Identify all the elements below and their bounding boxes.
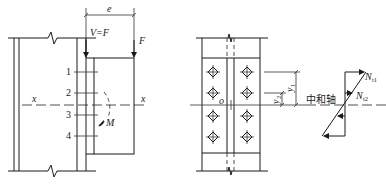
bolted-connection-diagram: 1 2 3 4 x x e V=F F M — [0, 0, 386, 184]
bracket-plate — [94, 58, 134, 154]
bolt-label-1: 1 — [66, 66, 71, 77]
y2-label-sub: 2 — [275, 96, 282, 99]
moment-label: M — [105, 117, 115, 128]
bolt-icon — [240, 86, 254, 100]
y2-label: y 2 — [270, 96, 282, 105]
x-axis-label-left: x — [31, 93, 37, 104]
right-section-view: o 中和轴 y 1 y 2 N — [190, 34, 386, 175]
bolt-group — [206, 65, 254, 144]
bottom-break-line — [8, 165, 96, 177]
left-elevation-view: 1 2 3 4 x x e V=F F M — [8, 3, 148, 177]
moment-arrowhead-icon — [99, 121, 104, 126]
bolt-icon — [206, 109, 220, 123]
bolt-icon — [240, 65, 254, 79]
bolt-label-3: 3 — [66, 109, 71, 120]
n-t1-subscript: t1 — [372, 76, 377, 83]
neutral-axis-label: 中和轴 — [306, 93, 336, 105]
y1-label-sub: 1 — [289, 84, 296, 87]
bolt-icon — [206, 86, 220, 100]
x-axis-label-right: x — [140, 93, 146, 104]
bolt-icon — [206, 65, 220, 79]
dimension-e-label: e — [107, 3, 112, 14]
origin-label: o — [219, 95, 224, 106]
bolt-icon — [240, 109, 254, 123]
bolt-label-4: 4 — [66, 130, 71, 141]
bolt-label-2: 2 — [66, 87, 71, 98]
n-t2-subscript: t2 — [363, 95, 368, 102]
force-f-label: F — [138, 35, 146, 46]
shear-force-label: V=F — [90, 27, 110, 38]
y1-label: y 1 — [284, 84, 296, 93]
bolt-icon — [240, 130, 254, 144]
top-break-line — [8, 32, 96, 44]
bolt-icon — [206, 130, 220, 144]
